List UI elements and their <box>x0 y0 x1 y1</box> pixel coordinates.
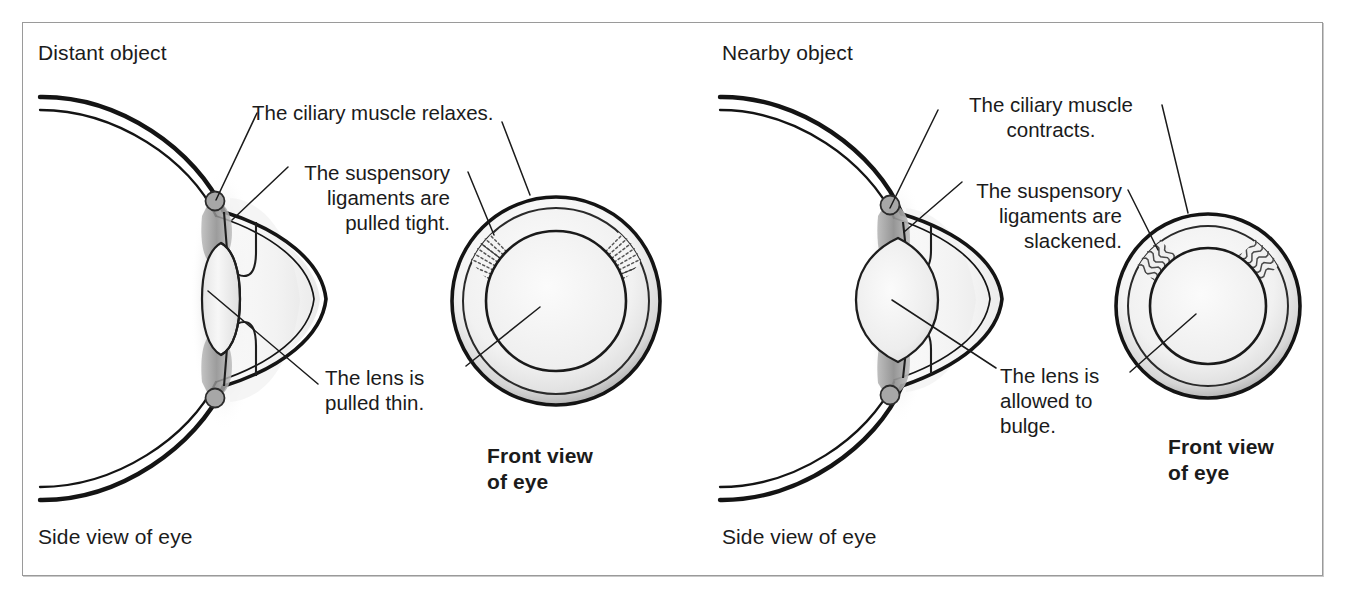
callout-nearby-lens: The lens is allowed to bulge. <box>1000 363 1099 438</box>
callout-distant-ligaments: The suspensory ligaments are pulled tigh… <box>286 160 450 235</box>
panel-heading-distant: Distant object <box>38 40 167 66</box>
eye-accommodation-figure: Distant object The ciliary muscle relaxe… <box>0 0 1349 593</box>
front-view-caption-nearby: Front view of eye <box>1168 434 1274 485</box>
side-view-caption-nearby: Side view of eye <box>722 524 877 550</box>
front-view-caption-distant: Front view of eye <box>487 443 593 494</box>
callout-nearby-ligaments: The suspensory ligaments are slackened. <box>958 178 1122 253</box>
callout-distant-ciliary: The ciliary muscle relaxes. <box>252 100 494 125</box>
callout-distant-lens: The lens is pulled thin. <box>325 365 424 415</box>
callout-nearby-ciliary: The ciliary muscle contracts. <box>962 92 1140 142</box>
side-view-caption-distant: Side view of eye <box>38 524 193 550</box>
panel-heading-nearby: Nearby object <box>722 40 853 66</box>
